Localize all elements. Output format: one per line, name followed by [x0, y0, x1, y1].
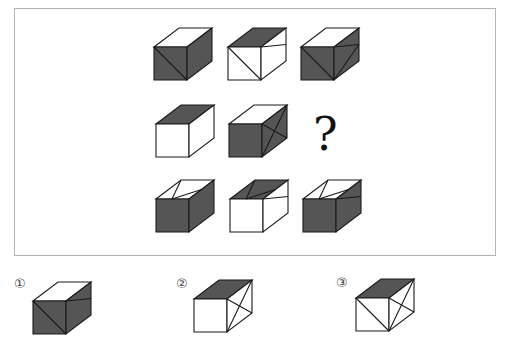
question-mark: ?	[313, 106, 338, 162]
cube-r3c1	[154, 177, 216, 243]
option-cube-1[interactable]	[31, 279, 93, 339]
cube-r3c2	[228, 177, 290, 243]
option-label-2: ②	[176, 276, 188, 291]
cube-r1c3	[299, 25, 361, 91]
option-label-3: ③	[336, 275, 348, 290]
cube-r3c3	[301, 177, 363, 243]
cube-r1c2	[226, 25, 288, 91]
cube-r2c2	[227, 102, 289, 168]
cube-r2c1	[154, 102, 216, 168]
cube-r1c1	[152, 25, 214, 91]
option-cube-3[interactable]	[354, 276, 416, 339]
option-cube-2[interactable]	[192, 277, 254, 339]
option-label-1: ①	[14, 276, 26, 291]
